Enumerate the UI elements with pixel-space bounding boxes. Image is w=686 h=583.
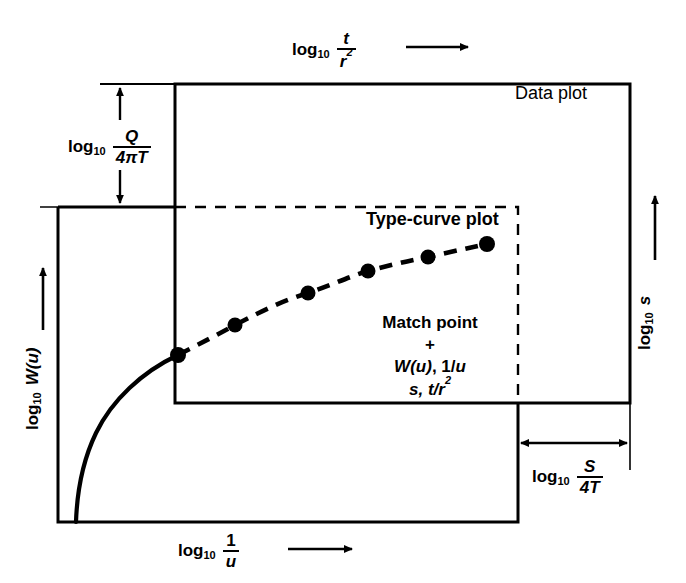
data-point-marker	[361, 264, 376, 279]
horizontal-offset-label: log10 S 4T	[532, 458, 603, 496]
fraction-S-over-4T: S 4T	[577, 458, 603, 496]
fraction-denominator: r2	[337, 48, 356, 70]
fraction-denominator: 4T	[577, 476, 603, 496]
data-plot-title: Data plot	[515, 84, 587, 103]
log-text: log	[635, 325, 654, 351]
type-curve-matching-figure: log10 t r2 log10 1 u log10 W(u) log10 s	[0, 0, 686, 583]
log-base: 10	[643, 312, 655, 324]
fraction-numerator: Q	[122, 128, 141, 146]
log-text: log	[68, 137, 94, 156]
type-curve-solid-line	[76, 355, 178, 522]
match-point-toverr: , t/r	[418, 380, 444, 399]
type-curve-plot-title: Type-curve plot	[366, 210, 499, 229]
match-point-line-3: W(u), 1/u	[345, 356, 515, 378]
type-curve-y-variable: W(u)	[24, 347, 42, 385]
data-plot-y-axis-label: log10 s	[636, 296, 654, 350]
data-point-marker	[421, 250, 436, 265]
log-text: log	[178, 541, 204, 560]
fraction-denominator: u	[223, 550, 239, 570]
data-point-marker	[228, 318, 243, 333]
log-base: 10	[558, 475, 570, 487]
data-plot-y-variable: s	[636, 296, 654, 305]
data-point-marker	[170, 347, 186, 363]
match-point-Wu: W(u)	[394, 357, 432, 376]
log-text: log	[532, 467, 558, 486]
data-point-marker	[479, 236, 495, 252]
log-base: 10	[94, 145, 106, 157]
log-text: log	[292, 40, 318, 59]
type-curve-x-axis-label: log10 1 u	[178, 532, 239, 570]
denominator-exponent: 2	[346, 46, 352, 58]
match-point-line-4: s, t/r2	[345, 377, 515, 400]
match-point-annotation: Match point + W(u), 1/u s, t/r2	[345, 312, 515, 401]
data-plot-x-axis-label: log10 t r2	[292, 30, 356, 70]
fraction-denominator: 4πT	[113, 146, 151, 166]
log-text: log	[23, 405, 42, 431]
log-base: 10	[318, 48, 330, 60]
match-point-exponent: 2	[445, 374, 451, 386]
fraction-numerator: S	[581, 458, 598, 476]
theis-type-curve	[76, 355, 178, 522]
match-point-1overu-sep: , 1/	[432, 357, 456, 376]
match-point-cross: +	[345, 334, 515, 356]
log-base: 10	[204, 549, 216, 561]
data-point-marker	[301, 286, 316, 301]
fraction-Q-over-4piT: Q 4πT	[113, 128, 151, 166]
fraction-1-over-u: 1 u	[223, 532, 239, 570]
match-point-line-1: Match point	[345, 312, 515, 334]
fraction-t-over-r2: t r2	[337, 30, 356, 70]
fraction-numerator: 1	[223, 532, 238, 550]
match-point-u: u	[456, 357, 466, 376]
log-base: 10	[31, 392, 43, 404]
type-curve-y-axis-label: log10 W(u)	[24, 347, 42, 430]
vertical-offset-label: log10 Q 4πT	[68, 128, 151, 166]
